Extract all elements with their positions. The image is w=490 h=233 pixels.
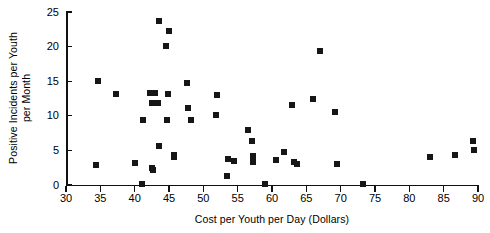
data-point [163, 43, 169, 49]
data-point [165, 91, 171, 97]
data-point [310, 96, 316, 102]
data-point [93, 162, 99, 168]
data-point [471, 147, 477, 153]
data-point [250, 153, 256, 159]
data-point [360, 181, 366, 187]
data-point [224, 173, 230, 179]
data-point [245, 127, 251, 133]
y-tick-label: 20 [37, 41, 59, 52]
data-point [262, 181, 268, 187]
x-tick-mark [409, 186, 410, 192]
data-point [185, 105, 191, 111]
x-tick-mark [271, 186, 272, 192]
x-tick-mark [374, 186, 375, 192]
data-point [231, 158, 237, 164]
data-point [332, 109, 338, 115]
data-point [213, 112, 219, 118]
x-tick-label: 55 [225, 193, 251, 204]
x-tick-mark [443, 186, 444, 192]
x-tick-mark [100, 186, 101, 192]
data-point [155, 100, 161, 106]
x-tick-label: 30 [53, 193, 79, 204]
data-point [250, 159, 256, 165]
data-point [95, 78, 101, 84]
x-tick-label: 85 [431, 193, 457, 204]
data-point [470, 138, 476, 144]
x-tick-label: 50 [190, 193, 216, 204]
x-tick-mark [65, 186, 66, 192]
x-tick-mark [168, 186, 169, 192]
data-point [149, 100, 155, 106]
x-tick-label: 35 [87, 193, 113, 204]
data-point [156, 18, 162, 24]
x-tick-label: 60 [259, 193, 285, 204]
data-point [140, 117, 146, 123]
x-tick-label: 70 [328, 193, 354, 204]
scatter-plot-figure: Positive Incidents per Youth per Month 0… [0, 0, 490, 233]
data-point [188, 117, 194, 123]
x-tick-label: 40 [122, 193, 148, 204]
x-tick-label: 80 [396, 193, 422, 204]
data-point [132, 160, 138, 166]
x-tick-mark [134, 186, 135, 192]
data-point [225, 156, 231, 162]
y-tick-label: 5 [37, 145, 59, 156]
data-point [152, 90, 158, 96]
x-tick-label: 75 [362, 193, 388, 204]
data-point [171, 154, 177, 160]
data-point [164, 117, 170, 123]
y-tick-label: 15 [37, 76, 59, 87]
data-point [334, 161, 340, 167]
data-point [289, 102, 295, 108]
y-tick-label: 0 [37, 180, 59, 191]
data-point [214, 92, 220, 98]
x-tick-label: 45 [156, 193, 182, 204]
y-axis-label: Positive Incidents per Youth per Month [0, 0, 40, 195]
data-point [281, 149, 287, 155]
y-tick-label: 10 [37, 110, 59, 121]
data-point [294, 161, 300, 167]
x-tick-mark [477, 186, 478, 192]
x-tick-mark [203, 186, 204, 192]
data-point [249, 138, 255, 144]
data-point [139, 181, 145, 187]
x-tick-mark [340, 186, 341, 192]
x-tick-label: 65 [293, 193, 319, 204]
data-point [273, 157, 279, 163]
x-tick-mark [237, 186, 238, 192]
y-axis-label-line-2: per Month [20, 32, 33, 164]
x-axis-label: Cost per Youth per Day (Dollars) [66, 213, 478, 225]
x-tick-mark [306, 186, 307, 192]
y-tick-label: 25 [37, 7, 59, 18]
data-point [317, 48, 323, 54]
data-point [113, 91, 119, 97]
data-point [184, 80, 190, 86]
data-point [166, 28, 172, 34]
data-point [150, 167, 156, 173]
data-point [427, 154, 433, 160]
data-point [452, 152, 458, 158]
data-point [156, 143, 162, 149]
y-axis-label-line-1: Positive Incidents per Youth [7, 32, 19, 164]
plot-area [66, 12, 478, 185]
x-tick-label: 90 [465, 193, 490, 204]
